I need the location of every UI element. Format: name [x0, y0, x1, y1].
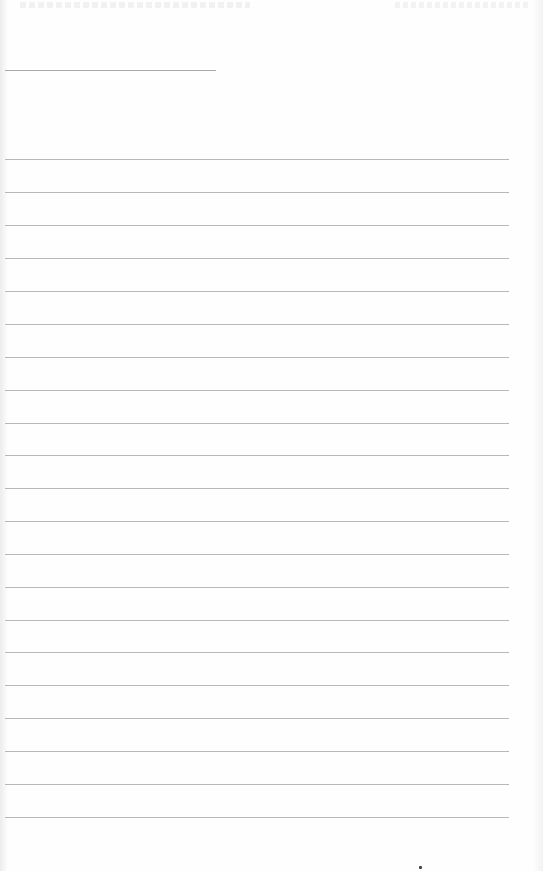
ruled-line: [5, 554, 509, 555]
ruled-line: [5, 159, 509, 160]
ruled-line: [5, 521, 509, 522]
ink-dot: [419, 866, 422, 869]
ruled-line: [5, 225, 509, 226]
bleed-through-text-right: [395, 2, 530, 8]
ruled-line: [5, 620, 509, 621]
ruled-line: [5, 784, 509, 785]
ruled-line: [5, 718, 509, 719]
ruled-line: [5, 587, 509, 588]
ruled-line: [5, 817, 509, 818]
ruled-line: [5, 423, 509, 424]
ruled-line: [5, 685, 509, 686]
right-edge-shadow: [533, 0, 543, 871]
bleed-through-text: [20, 2, 250, 8]
ruled-line: [5, 291, 509, 292]
ruled-line: [5, 324, 509, 325]
left-edge-shadow: [0, 0, 8, 871]
header-line: [5, 70, 216, 71]
notebook-page: [0, 0, 543, 871]
ruled-line: [5, 357, 509, 358]
ruled-line: [5, 390, 509, 391]
ruled-line: [5, 751, 509, 752]
ruled-line: [5, 258, 509, 259]
ruled-line: [5, 192, 509, 193]
ruled-line: [5, 488, 509, 489]
ruled-line: [5, 455, 509, 456]
ruled-line: [5, 652, 509, 653]
